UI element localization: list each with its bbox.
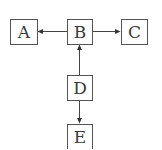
node-d-label: D [73, 78, 87, 98]
arrowhead-icon [77, 118, 82, 124]
edge-d-to-b [77, 45, 82, 76]
node-b: B [68, 20, 93, 45]
arrowhead-icon [77, 45, 82, 51]
node-e: E [68, 125, 93, 150]
node-d: D [68, 76, 93, 101]
node-a: A [11, 20, 38, 45]
node-e-label: E [74, 127, 86, 147]
node-c-label: C [128, 22, 141, 42]
flow-diagram: A B C D E [0, 0, 162, 149]
node-a-label: A [17, 22, 31, 42]
node-b-label: B [74, 22, 87, 42]
arrowhead-icon [115, 29, 121, 34]
edge-b-to-a [38, 29, 68, 34]
node-c: C [122, 20, 148, 45]
arrowhead-icon [38, 29, 44, 34]
edge-b-to-c [92, 29, 121, 34]
edge-d-to-e [77, 100, 82, 124]
